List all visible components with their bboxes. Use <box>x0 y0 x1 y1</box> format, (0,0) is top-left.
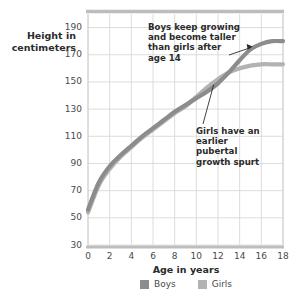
legend-label: Boys <box>154 280 176 289</box>
legend-label: Girls <box>212 280 232 289</box>
x-tick-label: 18 <box>275 252 291 261</box>
y-tick-label: 110 <box>56 132 82 141</box>
legend-swatch-boys <box>140 280 149 289</box>
x-tick-label: 10 <box>188 252 204 261</box>
x-tick-label: 0 <box>80 252 96 261</box>
y-tick-label: 50 <box>56 213 82 222</box>
y-tick-label: 130 <box>56 105 82 114</box>
y-tick-label: 90 <box>56 159 82 168</box>
x-tick-label: 16 <box>253 252 269 261</box>
annotation-girls-note: Girls have an earlier pubertal growth sp… <box>196 126 272 167</box>
annotation-boys-note: Boys keep growing and become taller than… <box>148 22 240 63</box>
x-tick-label: 4 <box>123 252 139 261</box>
x-tick-label: 8 <box>167 252 183 261</box>
y-tick-label: 170 <box>56 50 82 59</box>
legend-swatch-girls <box>198 280 207 289</box>
x-tick-label: 2 <box>102 252 118 261</box>
x-tick-label: 6 <box>145 252 161 261</box>
legend-item-boys[interactable]: Boys <box>140 280 176 289</box>
legend-item-girls[interactable]: Girls <box>198 280 232 289</box>
growth-chart-figure: Height in centimeters 190170150130110907… <box>0 0 296 298</box>
y-tick-label: 30 <box>56 241 82 250</box>
y-tick-label: 150 <box>56 77 82 86</box>
y-tick-label: 70 <box>56 186 82 195</box>
chart-legend: BoysGirls <box>88 280 284 289</box>
y-tick-label: 190 <box>56 23 82 32</box>
x-tick-label: 12 <box>210 252 226 261</box>
x-tick-label: 14 <box>232 252 248 261</box>
x-axis-title: Age in years <box>88 264 284 275</box>
